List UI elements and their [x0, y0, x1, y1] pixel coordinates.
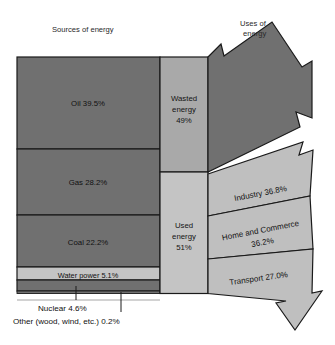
- title-uses-of-energy-line2: energy: [243, 29, 266, 38]
- label-gas: Gas 28.2%: [69, 178, 108, 187]
- title-uses-of-energy-line1: Uses of: [240, 19, 267, 28]
- label-water-power: Water power 5.1%: [58, 271, 119, 280]
- label-coal: Coal 22.2%: [68, 238, 108, 247]
- label-wasted-energy-line1: Wasted: [171, 94, 197, 103]
- middle-column: [160, 57, 208, 294]
- energy-flow-diagram: Sources of energy Uses of energy Oil 39.…: [0, 0, 335, 345]
- middle-block-wasted-energy: [160, 57, 208, 172]
- label-used-energy-line2: energy: [172, 232, 196, 241]
- callout-other: Other (wood, wind, etc.) 0.2%: [13, 317, 120, 326]
- diagram-canvas: Sources of energy Uses of energy Oil 39.…: [0, 0, 335, 345]
- callout-nuclear: Nuclear 4.6%: [38, 304, 87, 313]
- label-used-energy-line1: Used: [175, 221, 193, 230]
- sources-column: [17, 57, 160, 294]
- source-block-other: [17, 291, 160, 294]
- use-band-transport: [208, 249, 322, 330]
- label-wasted-energy-line3: 49%: [176, 116, 192, 125]
- source-block-nuclear: [17, 280, 160, 291]
- label-wasted-energy-line2: energy: [172, 105, 196, 114]
- label-used-energy-line3: 51%: [176, 243, 192, 252]
- title-sources-of-energy: Sources of energy: [52, 25, 114, 34]
- label-oil: Oil 39.5%: [71, 99, 105, 108]
